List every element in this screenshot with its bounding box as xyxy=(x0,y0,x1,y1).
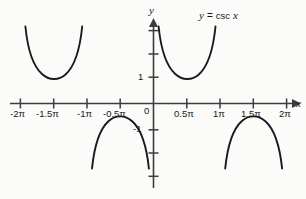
y-axis-arrowhead xyxy=(149,18,158,27)
x-tick-label-2pi: 2π xyxy=(279,109,291,119)
y-tick-label-1: 1 xyxy=(138,72,143,82)
x-tick-label--0.5pi: -0.5π xyxy=(103,109,126,119)
x-tick-label-1pi: 1π xyxy=(213,109,225,119)
branch-upper-left xyxy=(25,27,82,80)
equation-equals: = xyxy=(207,10,213,21)
x-tick-label--2pi: -2π xyxy=(10,109,25,119)
y-axis-label: y xyxy=(149,5,154,16)
branch-upper-right xyxy=(159,27,216,80)
equation-argument: x xyxy=(233,9,238,21)
csc-function-graph: -2π -1.5π -1π -0.5π 0.5π 1π 1.5π 2π 0 1 … xyxy=(0,0,306,199)
y-tick-label--1: -1 xyxy=(133,124,141,134)
equation-lhs: y xyxy=(199,9,204,21)
x-tick-label-0.5pi: 0.5π xyxy=(174,109,194,119)
x-axis-label: x xyxy=(296,98,301,109)
x-tick-label-1.5pi: 1.5π xyxy=(241,109,261,119)
equation-label: y=cscx xyxy=(199,10,238,21)
origin-label: 0 xyxy=(144,106,149,116)
x-tick-label--1pi: -1π xyxy=(77,109,92,119)
equation-function: csc xyxy=(216,10,230,21)
plot-canvas xyxy=(0,0,306,199)
branch-lower-right xyxy=(225,116,282,168)
x-tick-label--1.5pi: -1.5π xyxy=(36,109,59,119)
